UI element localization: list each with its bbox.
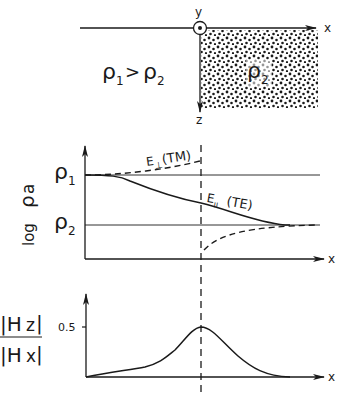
y-axis-label: y	[195, 5, 202, 19]
svg-text:II: II	[213, 201, 218, 210]
svg-text:a: a	[18, 184, 38, 194]
geometry-panel: y x z ρ 1 > ρ 2 ρ 2	[80, 5, 331, 127]
resistivity-relation-label: ρ 1 > ρ 2	[102, 59, 165, 88]
svg-text:log: log	[20, 223, 38, 246]
y-axis-label-log-rho-a: log ρ a	[15, 184, 39, 246]
hz-hx-curve	[86, 327, 290, 377]
z-axis-label: z	[196, 113, 202, 127]
x-axis-label-top: x	[324, 21, 331, 35]
svg-text:z: z	[26, 315, 35, 335]
tm-curve-right	[204, 225, 315, 250]
te-curve	[85, 175, 290, 225]
tick-label-rho1: ρ 1	[54, 159, 76, 188]
x-axis-label-bottom: x	[328, 370, 335, 384]
svg-text:|: |	[36, 342, 43, 366]
tipper-ratio-plot: 0.5 |H z | |H x | x	[0, 294, 335, 384]
svg-text:ρ: ρ	[247, 58, 261, 83]
svg-text:>: >	[125, 61, 140, 82]
svg-text:2: 2	[157, 74, 165, 88]
svg-text:ρ: ρ	[143, 59, 157, 84]
svg-text:x: x	[26, 346, 36, 366]
svg-text:1: 1	[68, 174, 76, 188]
apparent-resistivity-plot: log ρ a ρ 1 ρ 2 E ⊥ (TM) E II (TE) x	[15, 146, 335, 266]
y-axis-label-hz-over-hx: |H z | |H x |	[0, 311, 43, 367]
tick-label-0-5: 0.5	[58, 321, 76, 334]
x-axis-label-middle: x	[328, 252, 335, 266]
svg-text:1: 1	[116, 74, 124, 88]
svg-text:ρ: ρ	[54, 159, 68, 184]
svg-text:|H: |H	[0, 343, 22, 367]
tick-label-rho2: ρ 2	[54, 209, 76, 238]
svg-text:2: 2	[68, 224, 76, 238]
svg-text:|: |	[36, 311, 43, 335]
svg-text:(TE): (TE)	[225, 193, 254, 212]
svg-text:ρ: ρ	[15, 195, 39, 208]
svg-text:ρ: ρ	[54, 209, 68, 234]
svg-text:|H: |H	[0, 312, 22, 336]
svg-text:ρ: ρ	[102, 59, 116, 84]
svg-text:2: 2	[261, 73, 269, 87]
diagram-canvas: y x z ρ 1 > ρ 2 ρ 2 log ρ a ρ	[0, 0, 340, 396]
